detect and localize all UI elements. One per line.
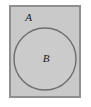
outer-set-label-a: A: [24, 11, 32, 23]
set-diagram-figure: A B: [0, 0, 91, 107]
set-diagram-container: A B: [0, 0, 91, 107]
inner-set-label-b: B: [43, 52, 50, 64]
